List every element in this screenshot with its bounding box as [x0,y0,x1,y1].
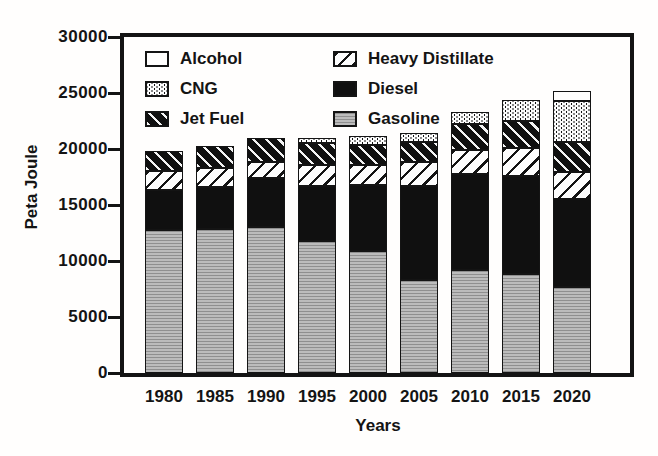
legend-item-heavy-distillate: Heavy Distillate [333,49,494,69]
bar-2020 [553,91,591,373]
bar-segment-2015-heavy-distillate [502,148,540,175]
bar-segment-1995-gasoline [298,241,336,373]
y-tick-mark-20000 [108,148,120,151]
y-tick-label-20000: 20000 [0,140,108,158]
legend-label-heavy-distillate: Heavy Distillate [368,49,494,69]
legend-swatch-gasoline [333,111,357,127]
x-axis-title: Years [335,416,421,436]
x-tick-label-1995: 1995 [291,387,343,405]
bar-segment-1995-diesel [298,186,336,241]
bar-segment-2000-gasoline [349,251,387,373]
x-tick-label-2005: 2005 [393,387,445,405]
bar-segment-2015-cng [502,100,540,121]
bar-segment-1990-diesel [247,178,285,227]
bar-segment-2010-heavy-distillate [451,150,489,174]
bar-segment-2015-jet-fuel [502,121,540,148]
bar-1985 [196,146,234,373]
legend-label-diesel: Diesel [368,79,418,99]
legend-label-jet-fuel: Jet Fuel [180,109,244,129]
legend-label-cng: CNG [180,79,218,99]
bar-1990 [247,138,285,373]
bar-segment-1980-diesel [145,190,183,229]
bar-segment-2005-gasoline [400,280,438,373]
bar-segment-2015-diesel [502,176,540,274]
bar-segment-1980-jet-fuel [145,151,183,171]
bar-segment-2005-jet-fuel [400,142,438,162]
bar-segment-2020-diesel [553,199,591,287]
legend-label-gasoline: Gasoline [368,109,440,129]
y-tick-label-25000: 25000 [0,84,108,102]
legend-swatch-heavy-distillate [333,51,357,67]
bar-segment-1985-heavy-distillate [196,168,234,187]
bar-segment-2010-jet-fuel [451,124,489,150]
x-tick-label-1985: 1985 [189,387,241,405]
y-tick-label-15000: 15000 [0,196,108,214]
bar-2000 [349,136,387,373]
y-tick-mark-15000 [108,204,120,207]
bar-segment-2000-jet-fuel [349,145,387,165]
bar-segment-2000-cng [349,136,387,146]
legend-label-alcohol: Alcohol [180,49,242,69]
y-tick-label-10000: 10000 [0,252,108,270]
legend-item-jet-fuel: Jet Fuel [145,109,333,129]
legend: AlcoholHeavy DistillateCNGDieselJet Fuel… [145,49,494,129]
bar-segment-2010-gasoline [451,270,489,373]
bar-segment-1990-gasoline [247,227,285,373]
bar-segment-2010-diesel [451,174,489,270]
bar-segment-2020-heavy-distillate [553,172,591,199]
plot-area: AlcoholHeavy DistillateCNGDieselJet Fuel… [120,33,634,377]
y-tick-label-30000: 30000 [0,28,108,46]
y-tick-mark-0 [108,372,120,375]
bar-segment-1980-gasoline [145,230,183,373]
bar-segment-2005-heavy-distillate [400,162,438,186]
legend-item-alcohol: Alcohol [145,49,333,69]
bar-segment-2005-cng [400,133,438,142]
legend-item-cng: CNG [145,79,333,99]
legend-swatch-diesel [333,81,357,97]
bar-segment-2020-alcohol [553,91,591,101]
bar-segment-1995-heavy-distillate [298,165,336,186]
legend-item-diesel: Diesel [333,79,494,99]
y-tick-mark-10000 [108,260,120,263]
bar-segment-1985-gasoline [196,229,234,373]
bar-segment-1990-jet-fuel [247,138,285,162]
bar-2015 [502,100,540,373]
legend-swatch-jet-fuel [145,111,169,127]
bar-segment-2020-gasoline [553,287,591,373]
legend-swatch-cng [145,81,169,97]
bar-segment-1985-diesel [196,187,234,228]
bar-segment-2000-diesel [349,185,387,251]
bar-1995 [298,138,336,373]
y-tick-label-5000: 5000 [0,308,108,326]
bar-segment-1990-heavy-distillate [247,162,285,178]
x-tick-label-2015: 2015 [495,387,547,405]
bar-segment-2015-gasoline [502,274,540,373]
bar-segment-1995-jet-fuel [298,143,336,164]
bar-segment-2005-diesel [400,186,438,280]
x-tick-label-2020: 2020 [546,387,598,405]
bar-segment-2010-cng [451,112,489,124]
y-tick-mark-25000 [108,92,120,95]
bar-2010 [451,112,489,373]
legend-swatch-alcohol [145,51,169,67]
y-tick-mark-5000 [108,316,120,319]
bar-segment-1980-heavy-distillate [145,171,183,190]
figure: Peta Joule 05000100001500020000250003000… [0,0,658,456]
x-tick-label-1980: 1980 [138,387,190,405]
bar-1980 [145,151,183,373]
x-tick-label-2010: 2010 [444,387,496,405]
bar-segment-2000-heavy-distillate [349,165,387,185]
bar-segment-1985-jet-fuel [196,146,234,168]
x-tick-label-1990: 1990 [240,387,292,405]
bar-segment-2020-jet-fuel [553,142,591,172]
y-tick-mark-30000 [108,36,120,39]
bar-segment-2020-cng [553,101,591,142]
x-tick-label-2000: 2000 [342,387,394,405]
y-tick-label-0: 0 [0,364,108,382]
bar-2005 [400,133,438,373]
